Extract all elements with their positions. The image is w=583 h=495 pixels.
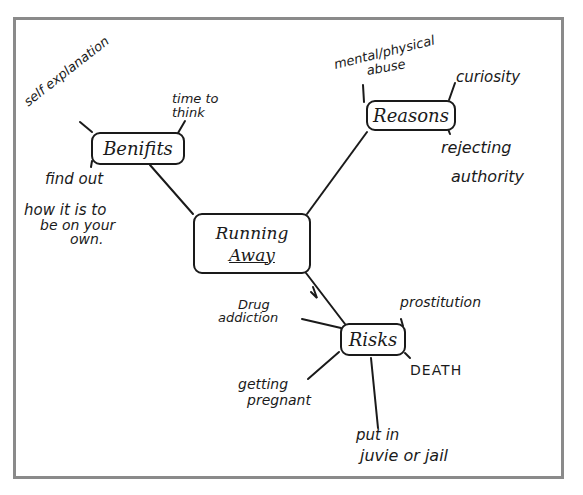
reasons-item-authority: authority xyxy=(451,170,524,184)
center-label-line2: Away xyxy=(229,244,275,266)
benefits-label: Benifits xyxy=(103,138,173,159)
risks-label: Risks xyxy=(349,329,398,350)
reasons-item-curiosity: curiosity xyxy=(456,70,520,84)
center-node-running-away: Running Away xyxy=(193,213,311,274)
risks-item-getting: getting xyxy=(238,377,288,391)
benefits-item-how-it-is-to: how it is to xyxy=(24,203,106,217)
risks-item-pregnant: pregnant xyxy=(247,393,311,407)
node-reasons: Reasons xyxy=(366,100,456,131)
benefits-item-own: own. xyxy=(70,232,103,246)
risks-item-prostitution: prostitution xyxy=(400,295,481,309)
reasons-item-rejecting: rejecting xyxy=(441,141,512,155)
benefits-item-be-on-your: be on your xyxy=(40,218,115,232)
node-risks: Risks xyxy=(340,323,406,356)
center-label-line1: Running xyxy=(216,222,289,244)
risks-item-juvie-or-jail: juvie or jail xyxy=(360,449,448,463)
risks-item-put-in: put in xyxy=(356,428,399,442)
risks-item-death: DEATH xyxy=(410,363,462,377)
benefits-item-find-out: find out xyxy=(45,172,103,186)
risks-item-addiction: addiction xyxy=(218,311,278,325)
benefits-item-time-to-think: time to think xyxy=(172,92,232,120)
reasons-label: Reasons xyxy=(373,105,449,126)
node-benefits: Benifits xyxy=(91,132,185,165)
